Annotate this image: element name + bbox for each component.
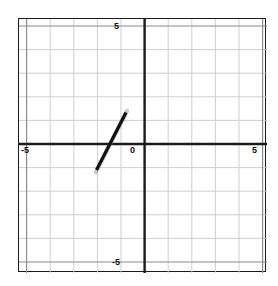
coordinate-plane-widget: 5 -5 -5 5 0: [0, 0, 278, 286]
y-axis-bottom-label: -5: [112, 258, 120, 267]
origin-label: 0: [130, 146, 135, 155]
plot-frame: [18, 18, 266, 272]
coordinate-grid-svg: [19, 19, 267, 273]
y-axis-top-label: 5: [114, 22, 119, 31]
x-axis-left-label: -5: [21, 146, 29, 155]
x-axis-right-label: 5: [252, 146, 257, 155]
major-boundary-gridlines: [19, 19, 267, 273]
